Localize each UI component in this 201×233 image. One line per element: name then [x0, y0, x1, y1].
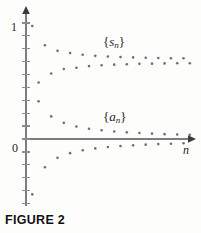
data-point [50, 72, 53, 75]
data-point [126, 63, 129, 66]
data-point [126, 131, 129, 134]
data-point [75, 125, 78, 128]
data-point [144, 56, 147, 59]
data-point [56, 157, 59, 160]
data-point [50, 115, 53, 118]
data-point [69, 152, 72, 155]
data-point [151, 132, 154, 135]
data-point [119, 145, 122, 148]
data-point [132, 144, 135, 147]
data-point [94, 147, 97, 150]
data-point [189, 134, 192, 137]
data-point [170, 57, 173, 60]
x-axis-label: n [183, 144, 189, 156]
brace-close: } [119, 34, 125, 49]
data-point [44, 44, 47, 47]
data-point [88, 65, 91, 68]
data-point [37, 100, 40, 103]
data-point [88, 127, 91, 130]
data-point [81, 149, 84, 152]
series-label-terms: {an} [103, 110, 127, 125]
data-point [170, 142, 173, 145]
brace-close: } [120, 109, 126, 124]
data-point [94, 55, 97, 58]
data-point [69, 52, 72, 55]
origin-label: 0 [12, 142, 18, 154]
data-point [189, 62, 192, 65]
figure-container: 1 0 n {sn} {an} FIGURE 2 [0, 0, 201, 233]
x-axis-arrow-icon [188, 135, 196, 143]
data-point [56, 50, 59, 53]
data-point [113, 130, 116, 133]
data-point [31, 193, 34, 196]
data-point [75, 67, 78, 70]
data-point [113, 63, 116, 66]
data-point [107, 146, 110, 149]
y-axis-tick-label-one: 1 [11, 21, 17, 33]
data-point [100, 64, 103, 67]
series-label-partial-sums: {sn} [103, 35, 125, 50]
data-point [176, 62, 179, 65]
plot-canvas [0, 0, 201, 233]
data-point [63, 68, 66, 71]
y-axis-arrow-icon [22, 6, 30, 14]
data-point [144, 143, 147, 146]
data-point [157, 57, 160, 60]
data-point [182, 57, 185, 60]
data-point [63, 122, 66, 125]
data-point [81, 54, 84, 57]
data-point [163, 133, 166, 136]
data-point [100, 129, 103, 132]
data-point [107, 55, 110, 58]
data-point [157, 143, 160, 146]
data-point [119, 56, 122, 59]
data-point [151, 62, 154, 65]
data-point [44, 166, 47, 169]
data-point [138, 132, 141, 135]
figure-caption: FIGURE 2 [5, 213, 65, 227]
data-point [132, 56, 135, 59]
data-point [31, 25, 34, 28]
data-point [37, 81, 40, 84]
data-point [163, 62, 166, 65]
data-point [138, 63, 141, 66]
data-point [176, 133, 179, 136]
